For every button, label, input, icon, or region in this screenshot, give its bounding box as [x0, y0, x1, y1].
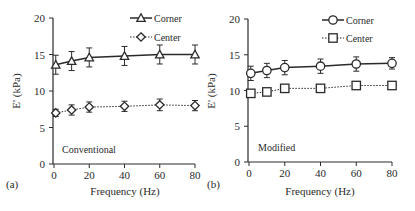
panel-label: (b) [207, 178, 220, 191]
legend-item-center: Center [322, 33, 373, 44]
series-corner [247, 57, 397, 81]
data-point-square-marker-icon [263, 88, 271, 96]
y-axis-label: E' (kPa) [10, 73, 23, 109]
data-point-diamond-marker-icon [191, 101, 199, 109]
legend-circle-marker-icon [329, 16, 337, 24]
legend-label: Corner [346, 15, 374, 26]
y-axis-label: E' (kPa) [205, 73, 218, 109]
x-axis-label: Frequency (Hz) [285, 185, 355, 198]
data-point-circle-marker-icon [247, 69, 255, 77]
y-tick-label: 10 [229, 85, 241, 97]
x-tick-label: 0 [246, 167, 252, 179]
y-tick-label: 15 [34, 49, 46, 61]
x-tick-label: 80 [190, 169, 202, 181]
x-tick-label: 40 [119, 169, 131, 181]
x-tick-label: 80 [387, 167, 399, 179]
y-tick-label: 10 [34, 85, 46, 97]
panel-annotation: Conventional [62, 144, 116, 155]
data-point-diamond-marker-icon [120, 102, 128, 110]
x-tick-label: 0 [51, 169, 57, 181]
y-tick-label: 0 [40, 158, 46, 170]
legend-item-center: Center [130, 32, 181, 43]
data-point-circle-marker-icon [352, 60, 360, 68]
panel-a-conventional: 05101520020406080Frequency (Hz)E' (kPa)(… [6, 12, 201, 198]
y-tick-label: 5 [40, 122, 46, 134]
data-point-square-marker-icon [388, 81, 396, 89]
figure: 05101520020406080Frequency (Hz)E' (kPa)(… [0, 0, 415, 211]
data-point-diamond-marker-icon [67, 106, 75, 114]
series-center [52, 99, 200, 117]
data-point-circle-marker-icon [316, 62, 324, 70]
y-tick-label: 0 [235, 156, 241, 168]
x-tick-label: 20 [279, 167, 291, 179]
panel-b-modified: 05101520020406080Frequency (Hz)E' (kPa)(… [205, 13, 398, 198]
y-tick-label: 20 [34, 12, 46, 24]
x-tick-label: 20 [84, 169, 96, 181]
legend-item-corner: Corner [322, 15, 374, 26]
x-axis-label: Frequency (Hz) [90, 185, 160, 198]
series-corner [52, 45, 200, 74]
data-point-circle-marker-icon [263, 66, 271, 74]
data-point-diamond-marker-icon [85, 103, 93, 111]
panel-annotation: Modified [258, 142, 295, 153]
x-tick-label: 60 [351, 167, 363, 179]
data-point-diamond-marker-icon [156, 101, 164, 109]
legend-item-corner: Corner [130, 13, 182, 24]
data-point-square-marker-icon [281, 84, 289, 92]
x-tick-label: 60 [154, 169, 166, 181]
data-point-square-marker-icon [247, 89, 255, 97]
y-tick-label: 20 [229, 13, 241, 25]
legend-label: Center [154, 32, 181, 43]
data-point-circle-marker-icon [388, 59, 396, 67]
x-tick-label: 40 [315, 167, 327, 179]
legend-label: Center [346, 33, 373, 44]
legend-label: Corner [154, 13, 182, 24]
panel-label: (a) [6, 178, 19, 191]
y-tick-label: 5 [235, 120, 241, 132]
data-point-square-marker-icon [316, 84, 324, 92]
legend-square-marker-icon [329, 34, 337, 42]
legend-diamond-marker-icon [137, 33, 145, 41]
data-point-circle-marker-icon [281, 63, 289, 71]
data-point-square-marker-icon [352, 81, 360, 89]
y-tick-label: 15 [229, 49, 241, 61]
series-center [247, 81, 397, 97]
